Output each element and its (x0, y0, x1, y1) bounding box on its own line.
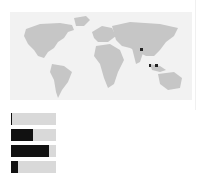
bar-fill (11, 113, 12, 125)
greenland (74, 16, 90, 26)
north-america (24, 23, 74, 58)
divider (195, 0, 196, 110)
bar-track (11, 113, 56, 125)
bar-fill (11, 145, 49, 157)
bar-fill (11, 129, 33, 141)
asia (112, 22, 178, 56)
bar-track (11, 145, 56, 157)
bar-list (11, 113, 56, 177)
highlight-sea-a (149, 64, 151, 67)
world-map[interactable] (10, 12, 192, 100)
europe (92, 26, 116, 42)
highlight-sea-b (155, 64, 158, 67)
africa (94, 44, 124, 88)
bar-track (11, 129, 56, 141)
south-america (50, 64, 72, 98)
highlight-bangladesh (140, 48, 143, 51)
bar-fill (11, 161, 18, 173)
bar-track (11, 161, 56, 173)
world-map-svg (10, 12, 192, 100)
australia (158, 72, 182, 90)
